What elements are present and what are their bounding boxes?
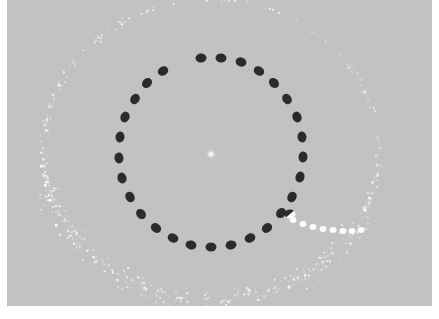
ring-speck (343, 57, 344, 58)
ring-speck (335, 48, 336, 49)
ring-speck (46, 154, 48, 156)
ring-speck (52, 206, 54, 208)
ring-speck (260, 294, 261, 295)
ring-speck (57, 212, 58, 213)
ring-speck (287, 286, 290, 289)
ring-speck (308, 275, 310, 277)
ring-speck (376, 175, 378, 177)
ring-speck (71, 231, 73, 233)
ring-speck (68, 227, 69, 228)
ring-speck (43, 124, 46, 127)
ring-speck (257, 298, 260, 301)
ring-speck (377, 139, 379, 141)
gray-photographic-plate (7, 0, 432, 306)
ring-speck (365, 203, 366, 204)
ring-marker (119, 111, 131, 125)
ring-speck (188, 291, 189, 292)
ring-speck (247, 293, 250, 296)
ring-speck (40, 141, 42, 143)
ring-speck (322, 266, 323, 267)
ring-speck (89, 264, 90, 265)
ring-speck (304, 273, 307, 276)
ring-speck (58, 188, 60, 190)
ring-speck (121, 17, 123, 19)
ring-speck (73, 243, 75, 245)
ring-speck (354, 67, 355, 68)
ring-speck (66, 238, 67, 239)
ring-speck (329, 46, 331, 48)
ring-speck (48, 199, 50, 201)
ring-speck (79, 246, 81, 248)
ring-speck (127, 267, 129, 269)
ring-speck (175, 292, 176, 293)
ring-speck (69, 70, 70, 71)
ring-speck (372, 185, 373, 186)
ring-speck (152, 6, 155, 9)
ring-speck (205, 0, 208, 1)
ring-speck (117, 286, 119, 288)
marker-layer (7, 0, 432, 306)
ring-speck (86, 249, 89, 252)
ring-speck (361, 92, 363, 94)
ring-marker (115, 131, 126, 143)
ring-speck (101, 34, 103, 36)
ring-speck (296, 276, 299, 279)
ring-speck (96, 266, 97, 267)
ring-speck (273, 287, 276, 290)
ring-speck (48, 103, 50, 105)
ring-speck (114, 259, 115, 260)
ring-speck (46, 120, 48, 122)
ring-speck (315, 266, 316, 267)
ring-speck (252, 294, 253, 295)
ring-marker (195, 52, 207, 62)
ring-speck (45, 190, 46, 191)
ring-speck (97, 36, 100, 39)
ring-marker (298, 151, 308, 162)
ring-speck (48, 185, 50, 187)
ring-speck (223, 296, 225, 298)
ring-speck (255, 289, 256, 290)
ring-speck (307, 29, 308, 30)
ring-speck (144, 289, 146, 291)
ring-speck (346, 64, 348, 66)
ring-speck (75, 232, 78, 235)
ring-speck (41, 199, 42, 200)
ring-speck (130, 287, 131, 288)
ring-speck (186, 301, 188, 303)
ring-speck (73, 250, 74, 251)
ring-speck (346, 250, 347, 251)
trail-marker (330, 227, 337, 233)
ring-marker (123, 190, 136, 204)
ring-speck (374, 182, 375, 183)
ring-speck (74, 63, 76, 65)
ring-marker (134, 207, 148, 221)
ring-speck (367, 96, 369, 98)
ring-speck (373, 179, 374, 180)
ring-speck (82, 50, 84, 52)
ring-speck (221, 3, 223, 5)
ring-speck (82, 259, 84, 261)
ring-speck (234, 0, 235, 1)
ring-speck (162, 301, 165, 304)
ring-speck (66, 76, 68, 78)
ring-speck (140, 293, 143, 296)
ring-speck (296, 19, 297, 20)
ring-marker (290, 110, 302, 124)
ring-speck (107, 257, 109, 259)
ring-marker (206, 242, 217, 251)
ring-marker (234, 56, 247, 68)
ring-speck (237, 293, 239, 295)
ring-marker (128, 92, 142, 106)
ring-speck (204, 294, 206, 296)
ring-speck (115, 28, 118, 31)
ring-speck (343, 239, 344, 240)
ring-speck (369, 217, 370, 218)
ring-speck (320, 257, 322, 259)
ring-speck (155, 293, 157, 295)
ring-speck (83, 252, 84, 253)
ring-speck (60, 195, 62, 197)
ring-speck (328, 41, 329, 42)
ring-speck (346, 252, 348, 254)
ring-speck (126, 276, 128, 278)
ring-speck (68, 231, 69, 232)
